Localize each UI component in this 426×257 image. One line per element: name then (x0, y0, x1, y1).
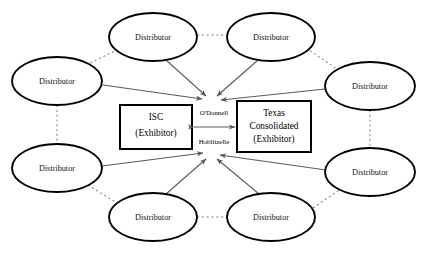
distributor-node-left-lower[interactable]: Distributor (12, 144, 102, 192)
solid-edge-rightlower-hub (220, 155, 326, 170)
solid-edge-leftupper-hub (103, 85, 202, 99)
distributor-label: Distributor (135, 33, 171, 42)
dotted-ring-edges (57, 35, 370, 217)
dotted-edge-leftlower-bottomleft (88, 185, 117, 203)
hoblitzelle-label: Hoblitzelle (199, 138, 230, 145)
isc-box-line-1: ISC (149, 112, 163, 122)
distributor-node-bottom-right[interactable]: Distributor (227, 193, 315, 241)
texas-consolidated-line-1: Texas (263, 108, 285, 118)
distributor-label: Distributor (135, 213, 171, 222)
solid-edge-rightupper-hub (221, 89, 325, 100)
dotted-edge-topright-rightupper (306, 48, 337, 69)
distributor-node-bottom-left[interactable]: Distributor (109, 193, 197, 241)
distributor-node-top-left[interactable]: Distributor (109, 13, 197, 61)
solid-edge-bottomleft-hub (166, 159, 206, 194)
solid-hub-edges-upper (103, 60, 325, 100)
distributor-label: Distributor (253, 33, 289, 42)
odonnell-label: O'Donnell (200, 109, 229, 116)
distribution-network-diagram: ISC (Exhibitor) Texas Consolidated (Exhi… (0, 0, 426, 257)
distributor-node-right-lower[interactable]: Distributor (325, 148, 415, 196)
solid-edge-topright-hub (217, 60, 258, 96)
solid-hub-edges-lower (102, 153, 326, 194)
link-label-hoblitzelle-group: Hoblitzelle (194, 137, 235, 147)
dotted-edge-bottomright-rightlower (313, 190, 339, 208)
solid-edge-bottomright-hub (217, 159, 259, 194)
exhibitor-box-isc[interactable]: ISC (Exhibitor) (120, 105, 192, 149)
solid-edge-leftlower-hub (102, 153, 203, 166)
distributor-label: Distributor (39, 164, 75, 173)
dotted-edge-leftupper-topleft (86, 49, 119, 65)
texas-consolidated-line-2: Consolidated (249, 121, 298, 131)
isc-box-line-2: (Exhibitor) (135, 128, 176, 139)
distributor-label: Distributor (352, 168, 388, 177)
texas-consolidated-line-3: (Exhibitor) (253, 134, 294, 145)
distributor-label: Distributor (39, 77, 75, 86)
diagram-canvas: ISC (Exhibitor) Texas Consolidated (Exhi… (0, 0, 426, 257)
link-label-odonnell-group: O'Donnell (196, 108, 233, 118)
distributor-node-left-upper[interactable]: Distributor (12, 57, 102, 105)
exhibitor-box-texas-consolidated[interactable]: Texas Consolidated (Exhibitor) (237, 101, 311, 152)
solid-edge-topleft-hub (166, 60, 206, 96)
distributor-node-right-upper[interactable]: Distributor (325, 62, 415, 110)
distributor-label: Distributor (253, 213, 289, 222)
distributor-label: Distributor (352, 82, 388, 91)
distributor-node-top-right[interactable]: Distributor (227, 13, 315, 61)
